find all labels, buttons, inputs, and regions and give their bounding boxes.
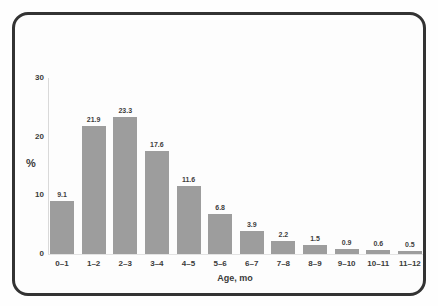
y-axis-label: % [26,157,36,169]
bar [366,250,390,254]
y-tick-label: 10 [26,191,44,199]
bar-group: 0.610–11 [366,78,390,254]
y-tick-label: 30 [26,74,44,82]
x-axis-title: Age, mo [48,273,422,283]
x-category-label: 4–5 [182,259,195,268]
bar [145,151,169,254]
x-category-label: 5–6 [213,259,226,268]
bar-group: 1.58–9 [303,78,327,254]
bar [303,245,327,254]
bar-value-label: 6.8 [215,204,225,211]
x-category-label: 8–9 [308,259,321,268]
bar-value-label: 3.9 [247,221,257,228]
bar-group: 17.63–4 [145,78,169,254]
bar [82,126,106,254]
bar [398,251,422,254]
x-category-label: 3–4 [150,259,163,268]
bar-value-label: 0.5 [405,241,415,248]
plot-area: 9.10–121.91–223.32–317.63–411.64–56.85–6… [48,78,423,255]
x-category-label: 6–7 [245,259,258,268]
x-category-label: 0–1 [55,259,68,268]
bar-value-label: 1.5 [310,235,320,242]
bar-group: 11.64–5 [177,78,201,254]
bar-value-label: 9.1 [57,191,67,198]
y-tick-label: 20 [26,133,44,141]
x-category-label: 11–12 [399,259,421,268]
bar-group: 3.96–7 [240,78,264,254]
bar [50,201,74,254]
bar-value-label: 21.9 [87,116,101,123]
bar-group: 23.32–3 [113,78,137,254]
bar-group: 0.511–12 [398,78,422,254]
x-category-label: 2–3 [119,259,132,268]
y-tick-label: 0 [26,250,44,258]
bar-group: 21.91–2 [82,78,106,254]
bar-value-label: 23.3 [118,107,132,114]
bar-group: 6.85–6 [208,78,232,254]
bar-value-label: 17.6 [150,141,164,148]
bar-group: 9.10–1 [50,78,74,254]
bar [177,186,201,254]
bar-group: 2.27–8 [271,78,295,254]
bar [113,117,137,254]
bar-value-label: 0.6 [373,240,383,247]
bar [240,231,264,254]
bar [335,249,359,254]
bar-value-label: 0.9 [342,239,352,246]
x-category-label: 10–11 [367,259,389,268]
bar [271,241,295,254]
x-category-label: 7–8 [277,259,290,268]
x-category-label: 1–2 [87,259,100,268]
bar-value-label: 2.2 [279,231,289,238]
chart-frame: % 9.10–121.91–223.32–317.63–411.64–56.85… [12,12,426,296]
bar-group: 0.99–10 [335,78,359,254]
x-category-label: 9–10 [338,259,356,268]
bar [208,214,232,254]
bars-container: 9.10–121.91–223.32–317.63–411.64–56.85–6… [49,78,423,254]
figure: % 9.10–121.91–223.32–317.63–411.64–56.85… [0,0,438,306]
bar-value-label: 11.6 [182,176,195,183]
